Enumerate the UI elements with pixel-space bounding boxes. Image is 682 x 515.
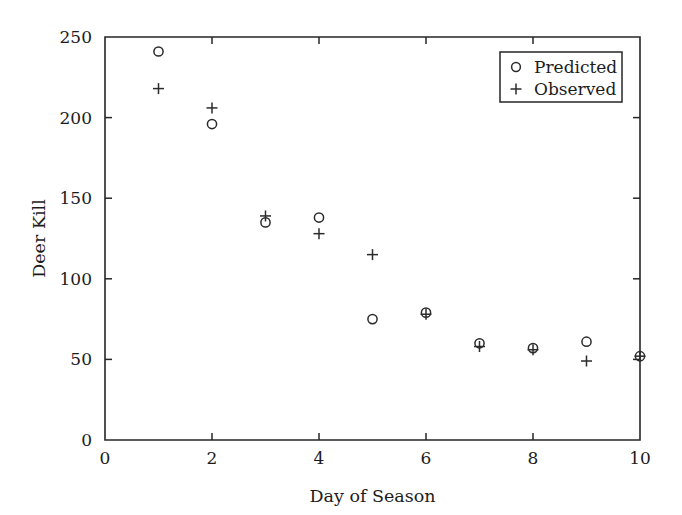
data-point-observed bbox=[581, 356, 592, 367]
y-tick-label: 0 bbox=[81, 430, 92, 450]
data-point-observed bbox=[153, 83, 164, 94]
y-tick-label: 100 bbox=[60, 269, 92, 289]
data-point-predicted bbox=[314, 213, 323, 222]
data-point-observed bbox=[367, 249, 378, 260]
data-point-predicted bbox=[207, 119, 216, 128]
data-point-predicted bbox=[154, 47, 163, 56]
y-tick-label: 200 bbox=[60, 108, 92, 128]
x-tick-label: 0 bbox=[100, 448, 111, 468]
data-point-observed bbox=[314, 228, 325, 239]
y-tick-label: 50 bbox=[70, 349, 92, 369]
legend-label: Predicted bbox=[534, 57, 617, 77]
y-tick-label: 150 bbox=[60, 188, 92, 208]
scatter-plot: 0246810050100150200250 Day of SeasonDeer… bbox=[0, 0, 682, 515]
y-axis-title: Deer Kill bbox=[29, 199, 49, 278]
chart-legend: PredictedObserved bbox=[500, 52, 622, 102]
x-tick-label: 10 bbox=[629, 448, 651, 468]
y-tick-label: 250 bbox=[60, 27, 92, 47]
data-point-observed bbox=[207, 102, 218, 113]
data-point-predicted bbox=[368, 315, 377, 324]
x-tick-label: 4 bbox=[314, 448, 325, 468]
x-axis-title: Day of Season bbox=[309, 486, 435, 506]
x-tick-label: 2 bbox=[207, 448, 218, 468]
x-tick-label: 6 bbox=[421, 448, 432, 468]
data-point-predicted bbox=[582, 337, 591, 346]
legend-label: Observed bbox=[534, 79, 616, 99]
x-tick-label: 8 bbox=[528, 448, 539, 468]
chart-figure: 0246810050100150200250 Day of SeasonDeer… bbox=[0, 0, 682, 515]
